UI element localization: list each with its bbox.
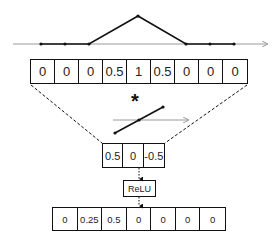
signal-points <box>39 14 235 45</box>
input-cell: 0 <box>175 60 199 83</box>
input-cell: 1 <box>127 60 151 83</box>
kernel-row: 0.5 0 -0.5 <box>102 143 165 168</box>
kernel-cell: -0.5 <box>144 144 164 167</box>
dashed-connector-right <box>165 85 247 143</box>
input-cell: 0.5 <box>151 60 175 83</box>
input-cell: 0 <box>223 60 247 83</box>
output-cell: 0.25 <box>78 208 103 230</box>
output-cell: 0.5 <box>102 208 127 230</box>
relu-box: ReLU <box>123 180 156 197</box>
dashed-connector-left <box>31 85 102 143</box>
input-cell: 0 <box>79 60 103 83</box>
output-cell: 0 <box>176 208 201 230</box>
output-sequence-row: 0 0.25 0.5 0 0 0 0 <box>52 207 226 231</box>
output-cell: 0 <box>127 208 152 230</box>
input-cell: 0 <box>55 60 79 83</box>
kernel-cell: 0 <box>123 144 143 167</box>
input-cell: 0 <box>31 60 55 83</box>
input-sequence-row: 0 0 0 0.5 1 0.5 0 0 0 <box>30 59 248 84</box>
kernel-cell: 0.5 <box>103 144 123 167</box>
output-cell: 0 <box>200 208 225 230</box>
input-cell: 0.5 <box>103 60 127 83</box>
signal-curve <box>41 16 234 44</box>
convolution-operator: * <box>131 90 139 113</box>
input-cell: 0 <box>199 60 223 83</box>
output-cell: 0 <box>53 208 78 230</box>
output-cell: 0 <box>151 208 176 230</box>
